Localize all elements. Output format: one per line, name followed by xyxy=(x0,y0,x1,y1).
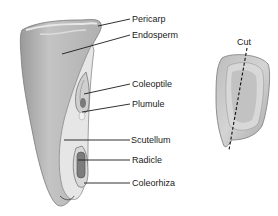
label-coleoptile: Coleoptile xyxy=(132,79,172,89)
label-endosperm: Endosperm xyxy=(132,30,178,40)
sectioned-kernel xyxy=(20,20,101,207)
label-radicle: Radicle xyxy=(132,155,162,165)
label-cut: Cut xyxy=(237,37,251,47)
label-pericarp: Pericarp xyxy=(132,14,166,24)
corn-kernel-diagram: Pericarp Endosperm Coleoptile Plumule Sc… xyxy=(0,0,278,216)
label-plumule: Plumule xyxy=(132,99,165,109)
whole-kernel xyxy=(216,48,270,150)
leader-pericarp xyxy=(98,19,130,26)
plumule-shape xyxy=(80,98,86,108)
label-coleorhiza: Coleorhiza xyxy=(132,178,175,188)
radicle-shape xyxy=(77,152,85,178)
label-scutellum: Scutellum xyxy=(131,135,171,145)
leader-coleoptile xyxy=(84,84,130,94)
